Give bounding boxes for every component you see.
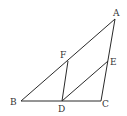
label-d: D: [58, 104, 65, 114]
label-b: B: [10, 97, 17, 107]
label-c: C: [102, 99, 109, 109]
label-a: A: [112, 8, 120, 18]
segment-df: [62, 61, 68, 101]
label-e: E: [110, 57, 117, 67]
segment-de: [62, 61, 108, 101]
geometry-diagram: A B C D E F: [0, 0, 127, 116]
segment-ab: [21, 19, 115, 101]
label-f: F: [60, 50, 66, 60]
